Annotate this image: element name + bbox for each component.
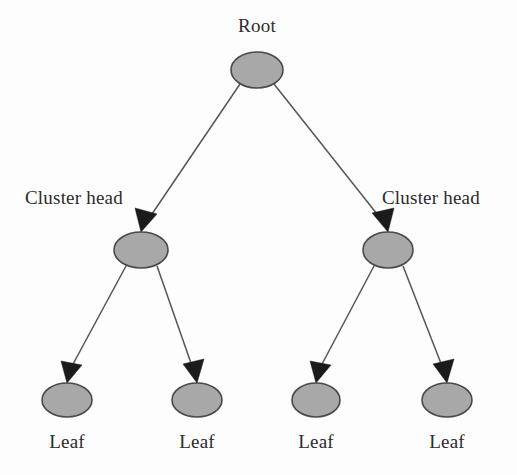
edge-cluster-head-right-to-leaf-4 — [403, 266, 454, 383]
label-cluster-head-right: Cluster head — [382, 188, 480, 207]
node-leaf-4[interactable] — [422, 383, 472, 417]
edge-cluster-head-left-to-leaf-2 — [157, 266, 204, 383]
edge-cluster-head-left-to-leaf-1 — [61, 266, 126, 383]
label-leaf-4: Leaf — [429, 432, 465, 451]
label-leaf-3: Leaf — [298, 432, 334, 451]
label-leaf-2: Leaf — [179, 432, 215, 451]
edge-cluster-head-right-to-leaf-3 — [310, 266, 374, 383]
node-leaf-3[interactable] — [292, 383, 340, 417]
label-cluster-head-left: Cluster head — [25, 188, 123, 207]
tree-diagram-figure: Root Cluster head Cluster head Leaf Leaf… — [0, 0, 517, 475]
node-leaf-1[interactable] — [42, 383, 92, 417]
label-root: Root — [238, 16, 276, 35]
diagram-canvas — [0, 0, 517, 475]
node-cluster-head-right[interactable] — [363, 232, 413, 268]
node-cluster-head-left[interactable] — [114, 232, 168, 268]
edge-root-to-cluster-head-left — [135, 84, 240, 232]
node-root[interactable] — [231, 52, 283, 88]
node-leaf-2[interactable] — [172, 383, 222, 417]
edge-root-to-cluster-head-right — [274, 84, 394, 232]
label-leaf-1: Leaf — [49, 432, 85, 451]
